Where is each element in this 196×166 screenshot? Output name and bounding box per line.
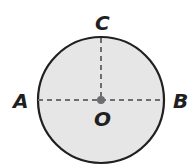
label-a: A — [11, 89, 28, 113]
label-b: B — [173, 89, 188, 113]
center-point — [97, 96, 105, 104]
label-o: O — [94, 107, 111, 131]
circle-diagram: C A B O — [0, 0, 196, 166]
label-c: C — [95, 11, 110, 35]
